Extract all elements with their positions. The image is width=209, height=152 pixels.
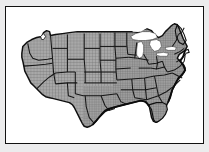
- lake-erie-shape: [156, 52, 168, 56]
- screenshot-root: Grayscale county-level map of the contig…: [0, 0, 209, 152]
- us-county-map: [6, 7, 203, 143]
- map-frame: Grayscale county-level map of the contig…: [5, 6, 204, 144]
- lake-ontario-shape: [165, 46, 176, 50]
- lake-michigan-shape: [137, 41, 144, 58]
